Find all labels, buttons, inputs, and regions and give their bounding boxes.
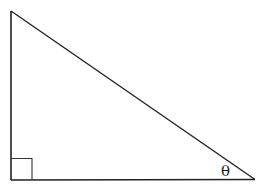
angle-theta-label: θ — [221, 162, 230, 180]
hypotenuse — [11, 11, 255, 180]
horizontal-leg — [11, 180, 255, 181]
right-angle-marker — [11, 159, 32, 181]
right-triangle-diagram: θ — [0, 0, 264, 191]
